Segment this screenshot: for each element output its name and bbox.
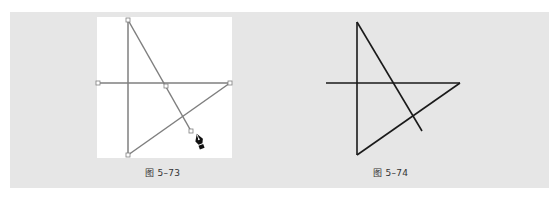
- anchor-point[interactable]: [126, 18, 130, 22]
- anchor-point[interactable]: [164, 84, 168, 88]
- anchor-point[interactable]: [126, 153, 130, 157]
- anchor-point[interactable]: [189, 129, 193, 133]
- figure-caption: 图 5–73: [145, 166, 180, 179]
- stroke-diagonal-down: [357, 22, 422, 131]
- pen-drawing-selected: [0, 0, 559, 204]
- anchor-point[interactable]: [96, 81, 100, 85]
- anchor-point[interactable]: [228, 81, 232, 85]
- path-diagonal-down[interactable]: [128, 20, 191, 131]
- stroke-diagonal-up: [357, 83, 460, 155]
- figure-caption: 图 5–74: [373, 166, 408, 179]
- path-diagonal-up[interactable]: [128, 83, 230, 155]
- pen-tool-icon: [193, 132, 206, 150]
